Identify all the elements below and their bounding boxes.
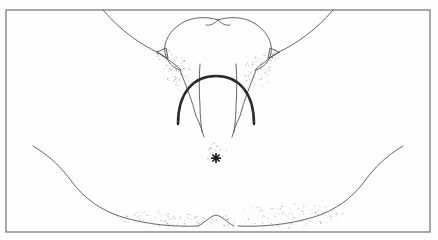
illustration-svg <box>0 0 438 240</box>
marker-layer <box>212 154 221 163</box>
canvas-background <box>0 0 438 240</box>
illustration-canvas: Anatomical line drawing of perineum with… <box>0 0 438 240</box>
anus-asterisk-marker <box>212 154 221 163</box>
